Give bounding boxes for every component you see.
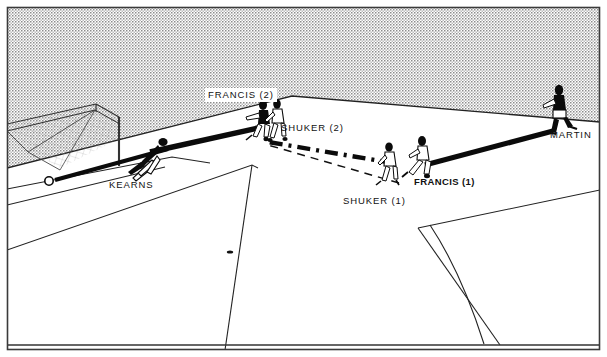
label-francis-1: FRANCIS (1) (414, 177, 475, 187)
penalty-spot (227, 250, 233, 253)
francis2-head (259, 100, 267, 110)
martin-head (555, 85, 563, 95)
label-francis-2: FRANCIS (2) (205, 88, 277, 102)
ball-icon (45, 177, 53, 185)
shuker2-boot-right (282, 137, 287, 141)
label-shuker-1: SHUKER (1) (343, 196, 406, 206)
label-martin: MARTIN (550, 130, 592, 140)
kearns-head (158, 138, 167, 146)
francis1-head (418, 136, 426, 146)
label-shuker-2: SHUKER (2) (281, 123, 344, 133)
martin-shorts (553, 110, 566, 118)
shuker2-boot-left (267, 138, 272, 142)
scene (7, 7, 600, 350)
diagram-canvas (0, 0, 607, 357)
shuker1-leg-right (393, 166, 398, 179)
match-diagram: FRANCIS (2) SHUKER (2) MARTIN KEARNS SHU… (0, 0, 607, 357)
shuker1-head (385, 142, 393, 151)
label-kearns: KEARNS (109, 180, 153, 190)
